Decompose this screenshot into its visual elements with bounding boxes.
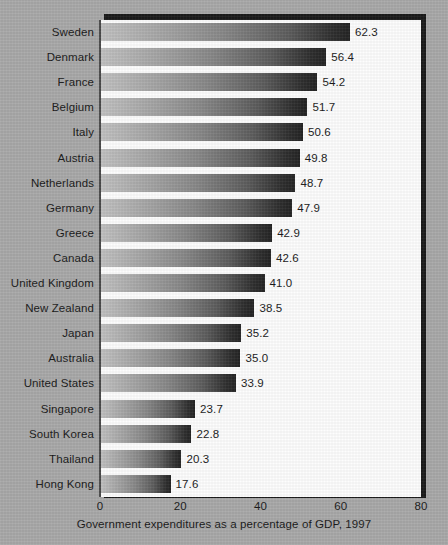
bar-value-label: 49.8 bbox=[305, 146, 328, 170]
bar-row: Australia35.0 bbox=[0, 346, 448, 370]
bar-rows: Sweden62.3Denmark56.4France54.2Belgium51… bbox=[0, 20, 448, 497]
bar-value-label: 20.3 bbox=[186, 447, 209, 471]
bar-row: Belgium51.7 bbox=[0, 95, 448, 119]
bar-value-label: 33.9 bbox=[241, 371, 264, 395]
bar bbox=[100, 349, 240, 367]
bar-row: Sweden62.3 bbox=[0, 20, 448, 44]
bar-value-label: 47.9 bbox=[297, 196, 320, 220]
category-label: Thailand bbox=[49, 447, 94, 471]
category-label: South Korea bbox=[29, 422, 94, 446]
bar-value-label: 54.2 bbox=[322, 70, 345, 94]
category-label: Denmark bbox=[47, 45, 94, 69]
bar bbox=[100, 149, 300, 167]
bar bbox=[100, 374, 236, 392]
bar-value-label: 62.3 bbox=[355, 20, 378, 44]
bar-row: Denmark56.4 bbox=[0, 45, 448, 69]
category-label: United States bbox=[24, 371, 94, 395]
bar bbox=[100, 199, 292, 217]
bar-row: South Korea22.8 bbox=[0, 422, 448, 446]
bar-chart-figure: Sweden62.3Denmark56.4France54.2Belgium51… bbox=[0, 0, 448, 545]
y-axis-spine bbox=[99, 20, 101, 497]
bar-value-label: 50.6 bbox=[308, 120, 331, 144]
bar-value-label: 42.9 bbox=[277, 221, 300, 245]
bar bbox=[100, 400, 195, 418]
category-label: Canada bbox=[53, 246, 94, 270]
bar-value-label: 22.8 bbox=[196, 422, 219, 446]
bar-row: Germany47.9 bbox=[0, 196, 448, 220]
x-tick-label: 80 bbox=[415, 500, 428, 512]
bar-row: Netherlands48.7 bbox=[0, 171, 448, 195]
bar-row: France54.2 bbox=[0, 70, 448, 94]
bar-row: New Zealand38.5 bbox=[0, 296, 448, 320]
bar bbox=[100, 73, 317, 91]
category-label: Austria bbox=[58, 146, 95, 170]
category-label: Hong Kong bbox=[36, 472, 94, 496]
category-label: Belgium bbox=[52, 95, 94, 119]
bar-value-label: 48.7 bbox=[300, 171, 323, 195]
bar bbox=[100, 123, 303, 141]
category-label: France bbox=[58, 70, 94, 94]
bar-row: Italy50.6 bbox=[0, 120, 448, 144]
x-tick-label: 60 bbox=[334, 500, 347, 512]
bar bbox=[100, 299, 254, 317]
bar-value-label: 42.6 bbox=[276, 246, 299, 270]
bar-row: Canada42.6 bbox=[0, 246, 448, 270]
bar bbox=[100, 450, 181, 468]
bar-value-label: 35.2 bbox=[246, 321, 269, 345]
bar-value-label: 38.5 bbox=[259, 296, 282, 320]
bar-row: Japan35.2 bbox=[0, 321, 448, 345]
bar-row: Greece42.9 bbox=[0, 221, 448, 245]
bar-value-label: 56.4 bbox=[331, 45, 354, 69]
category-label: Germany bbox=[46, 196, 94, 220]
bar bbox=[100, 425, 191, 443]
bar-value-label: 17.6 bbox=[176, 472, 199, 496]
bar-value-label: 35.0 bbox=[245, 346, 268, 370]
x-tick-label: 40 bbox=[254, 500, 267, 512]
x-tick-label: 0 bbox=[97, 500, 103, 512]
category-label: Greece bbox=[56, 221, 94, 245]
bar-row: Hong Kong17.6 bbox=[0, 472, 448, 496]
bar-value-label: 41.0 bbox=[270, 271, 293, 295]
bar-value-label: 51.7 bbox=[312, 95, 335, 119]
bar-row: Thailand20.3 bbox=[0, 447, 448, 471]
x-tick-label: 20 bbox=[174, 500, 187, 512]
bar-row: United Kingdom41.0 bbox=[0, 271, 448, 295]
bar bbox=[100, 274, 265, 292]
bar bbox=[100, 249, 271, 267]
bar bbox=[100, 224, 272, 242]
category-label: Netherlands bbox=[31, 171, 94, 195]
bar bbox=[100, 98, 307, 116]
bar-row: United States33.9 bbox=[0, 371, 448, 395]
category-label: Australia bbox=[48, 346, 94, 370]
category-label: Japan bbox=[62, 321, 94, 345]
chart-caption: Government expenditures as a percentage … bbox=[0, 518, 448, 530]
bar bbox=[100, 23, 350, 41]
bar bbox=[100, 174, 295, 192]
bar-row: Austria49.8 bbox=[0, 146, 448, 170]
category-label: United Kingdom bbox=[11, 271, 94, 295]
bar-value-label: 23.7 bbox=[200, 397, 223, 421]
bar bbox=[100, 48, 326, 66]
category-label: Sweden bbox=[52, 20, 94, 44]
bar bbox=[100, 475, 171, 493]
bar-row: Singapore23.7 bbox=[0, 397, 448, 421]
category-label: New Zealand bbox=[25, 296, 94, 320]
category-label: Italy bbox=[72, 120, 94, 144]
category-label: Singapore bbox=[41, 397, 94, 421]
bar bbox=[100, 324, 241, 342]
